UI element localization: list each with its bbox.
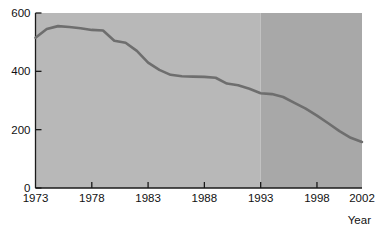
shaded-band-light (36, 13, 261, 188)
x-axis-tick-label: 1973 (23, 192, 49, 204)
shaded-band-dark (261, 13, 362, 188)
x-axis-tick-label: 1988 (192, 192, 218, 204)
y-axis-tick-label: 600 (11, 7, 30, 19)
chart-container: 0200400600 1973197819831988199319982002 … (0, 0, 379, 243)
x-axis-tick-label: 1998 (304, 192, 330, 204)
line-chart: 0200400600 1973197819831988199319982002 … (0, 0, 379, 243)
x-axis-tick-label: 1978 (79, 192, 105, 204)
x-axis-tick-label: 2002 (349, 192, 375, 204)
x-axis-tick-label: 1983 (135, 192, 161, 204)
x-axis-title: Year (348, 214, 371, 226)
y-axis-tick-label: 400 (11, 65, 30, 77)
x-axis-tick-label: 1993 (248, 192, 274, 204)
y-axis-tick-label: 200 (11, 124, 30, 136)
